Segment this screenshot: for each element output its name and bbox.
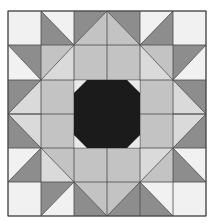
quilt-block	[0, 0, 212, 223]
square-patch	[8, 11, 41, 45]
center-octagon	[74, 80, 140, 148]
square-patch	[173, 11, 206, 45]
square-patch	[173, 182, 206, 216]
square-patch	[8, 182, 41, 216]
